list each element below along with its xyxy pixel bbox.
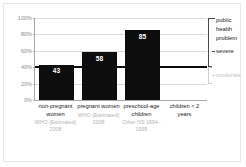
bar-value-label: 58 [82, 55, 116, 62]
x-label-group-preschool-age-children: preschool-age children Other NS 1994–199… [120, 103, 163, 133]
ytick-label-40: 40% [21, 64, 32, 70]
bar-series: 43 58 85 [35, 18, 207, 100]
ytick-label-80: 80% [21, 31, 32, 37]
x-label-source: WHO (Estimated) 2008 [34, 119, 77, 133]
bracket-tick-top [212, 18, 215, 19]
bracket-tick-severe [212, 51, 215, 52]
ytick-label-0: 0% [24, 97, 32, 103]
bar-column-children-under-2 [164, 18, 207, 100]
bar-pregnant-women[interactable]: 58 [82, 52, 116, 100]
ytick-label-60: 60% [21, 48, 32, 54]
bar-column-non-pregnant-women: 43 [35, 18, 78, 100]
ytick-mark-0 [33, 100, 35, 101]
x-label-main: non-pregnant women [34, 103, 77, 118]
chart-frame: 100% 80% 60% 40% 20% 0% 43 58 [3, 3, 241, 162]
severity-legend: public health problem severe moderate [208, 18, 246, 100]
x-axis-labels: non-pregnant women WHO (Estimated) 2008 … [34, 103, 206, 133]
bracket-public-health-problem [208, 18, 212, 67]
annotation-moderate: moderate [216, 71, 241, 80]
plot-area: 100% 80% 60% 40% 20% 0% 43 58 [34, 18, 207, 101]
ytick-label-100: 100% [18, 15, 32, 21]
x-label-source: Other NS 1994–1995 [120, 119, 163, 133]
bar-non-pregnant-women[interactable]: 43 [39, 65, 73, 100]
x-label-main: preschool-age children [120, 103, 163, 118]
x-label-main: children < 2 years [163, 103, 206, 118]
x-label-main: pregnant women [77, 103, 120, 111]
annotation-public-health-problem: public health problem [216, 16, 237, 43]
bracket-tick-moderate [212, 75, 215, 76]
ytick-label-20: 20% [21, 81, 32, 87]
bar-value-label: 85 [125, 33, 159, 40]
x-label-source: WHO (Estimated) 2008 [77, 112, 120, 126]
bar-column-preschool-age-children: 85 [121, 18, 164, 100]
threshold-line-40 [35, 66, 207, 68]
x-label-group-children-under-2: children < 2 years [163, 103, 206, 133]
x-label-group-non-pregnant-women: non-pregnant women WHO (Estimated) 2008 [34, 103, 77, 133]
x-label-group-pregnant-women: pregnant women WHO (Estimated) 2008 [77, 103, 120, 133]
bar-value-label: 43 [39, 67, 73, 74]
bar-column-pregnant-women: 58 [78, 18, 121, 100]
annotation-severe: severe [216, 47, 234, 56]
bar-preschool-age-children[interactable]: 85 [125, 30, 159, 100]
